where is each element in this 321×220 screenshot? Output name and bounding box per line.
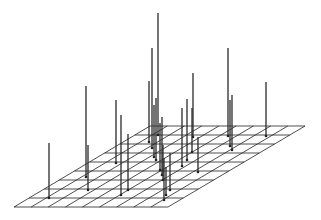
stem-base-marker: [169, 189, 172, 192]
grid-column-line: [168, 126, 305, 207]
stem-base-marker: [165, 194, 168, 197]
stem-base-marker: [197, 171, 200, 174]
stem-base-marker: [85, 176, 88, 179]
stem-plot-3d: [0, 0, 321, 220]
grid-column-line: [117, 126, 254, 207]
stem-base-marker: [127, 189, 130, 192]
grid-column-line: [31, 126, 167, 207]
grid-column-line: [151, 126, 288, 207]
stem-base-marker: [48, 197, 51, 200]
stem-base-marker: [265, 135, 268, 138]
stem-base-marker: [151, 147, 154, 150]
stem-base-marker: [186, 159, 189, 162]
stem-base-marker: [87, 189, 90, 192]
stem-base-marker: [191, 151, 194, 154]
stem-base-marker: [155, 159, 158, 162]
stem-base-marker: [148, 141, 151, 144]
stem-base-marker: [229, 145, 232, 148]
stem-base-marker: [159, 169, 162, 172]
stem-base-marker: [120, 194, 123, 197]
stem-base-marker: [163, 199, 166, 202]
grid-column-line: [14, 126, 150, 207]
stem-base-marker: [181, 165, 184, 168]
stem-base-marker: [192, 136, 195, 139]
stem-base-marker: [227, 135, 230, 138]
stem-base-marker: [115, 162, 118, 165]
stem-base-marker: [153, 156, 156, 159]
stem-base-marker: [231, 149, 234, 152]
stem-base-marker: [157, 134, 160, 137]
